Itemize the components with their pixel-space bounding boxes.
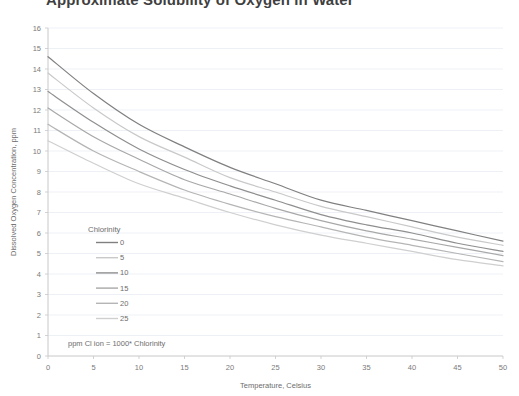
y-tick-label: 1 (37, 331, 41, 340)
y-tick-label: 11 (33, 126, 41, 135)
x-tick-label: 15 (180, 363, 188, 372)
y-tick-label: 3 (37, 290, 41, 299)
x-axis-title: Temperature, Celsius (240, 381, 311, 390)
y-tick-labels: 012345678910111213141516 (33, 24, 48, 361)
x-tick-label: 35 (362, 363, 370, 372)
x-tick-label: 5 (91, 363, 95, 372)
y-tick-label: 14 (33, 65, 41, 74)
y-tick-label: 6 (37, 229, 41, 238)
x-tick-label: 20 (226, 363, 234, 372)
legend-annotation: ppm Cl ion = 1000* Chlorinity (68, 339, 166, 348)
y-tick-label: 16 (33, 24, 41, 33)
axis-titles-group: Temperature, CelsiusDissolved Oxygen Con… (9, 128, 311, 390)
data-series-line (48, 124, 503, 261)
legend-item-label: 10 (120, 268, 128, 277)
data-series-group (48, 57, 503, 266)
y-axis-title: Dissolved Oxygen Concentration, ppm (9, 128, 18, 256)
y-tick-label: 15 (33, 44, 41, 53)
data-series-line (48, 73, 503, 245)
y-tick-label: 8 (37, 188, 41, 197)
x-tick-label: 45 (453, 363, 461, 372)
chart-container: Approximate Solubility of Oxygen in Wate… (0, 0, 519, 396)
y-tick-label: 5 (37, 249, 41, 258)
legend-item-label: 15 (120, 284, 128, 293)
x-tick-label: 50 (499, 363, 507, 372)
y-tick-label: 12 (33, 106, 41, 115)
x-tick-label: 0 (46, 363, 50, 372)
x-tick-label: 40 (408, 363, 416, 372)
legend-item-label: 5 (120, 253, 124, 262)
x-tick-label: 10 (135, 363, 143, 372)
x-tick-label: 25 (271, 363, 279, 372)
y-tick-label: 0 (37, 352, 41, 361)
y-tick-label: 10 (33, 147, 41, 156)
x-tick-label: 30 (317, 363, 325, 372)
y-tick-label: 13 (33, 85, 41, 94)
y-tick-label: 9 (37, 167, 41, 176)
y-tick-label: 7 (37, 208, 41, 217)
legend-group: Chlorinity0510152025ppm Cl ion = 1000* C… (68, 225, 166, 348)
legend-item-label: 20 (120, 299, 128, 308)
x-tick-labels: 05101520253035404550 (46, 356, 507, 372)
legend-item-label: 25 (120, 314, 128, 323)
y-tick-label: 2 (37, 311, 41, 320)
chart-plot-area: 012345678910111213141516 051015202530354… (0, 0, 519, 396)
legend-title: Chlorinity (88, 225, 121, 234)
gridlines-horizontal (48, 28, 503, 336)
legend-item-label: 0 (120, 238, 124, 247)
y-tick-label: 4 (37, 270, 41, 279)
data-series-line (48, 141, 503, 266)
